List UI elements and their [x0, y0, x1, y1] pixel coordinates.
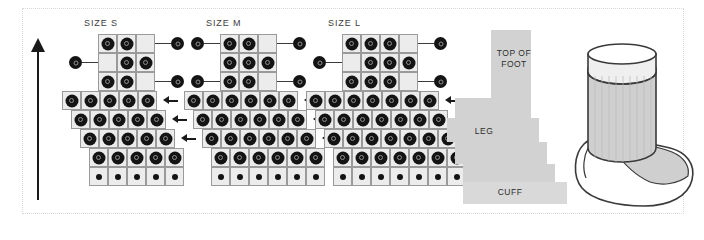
stitch-cell[interactable] — [138, 91, 157, 110]
stitch-cell[interactable] — [428, 167, 447, 186]
stitch-cell[interactable] — [278, 129, 297, 148]
stitch-cell[interactable] — [269, 110, 288, 129]
stitch-cell[interactable] — [428, 148, 447, 167]
stitch-cell[interactable] — [380, 53, 399, 72]
stitch-cell[interactable] — [117, 53, 136, 72]
stitch-cell[interactable] — [109, 110, 128, 129]
stitch-cell[interactable] — [239, 34, 258, 53]
stitch-cell[interactable] — [127, 148, 146, 167]
stitch-cell[interactable] — [390, 167, 409, 186]
stitch-cell[interactable] — [249, 148, 268, 167]
stitch-cell[interactable] — [380, 72, 399, 91]
stitch-cell[interactable] — [344, 91, 363, 110]
stitch-cell[interactable] — [409, 167, 428, 186]
stitch-cell[interactable] — [361, 53, 380, 72]
stitch-cell[interactable] — [363, 91, 382, 110]
stitch-cell[interactable] — [401, 91, 420, 110]
stitch-cell[interactable] — [288, 110, 307, 129]
stitch-cell[interactable] — [80, 129, 99, 148]
stitch-cell[interactable] — [399, 53, 418, 72]
stitch-cell[interactable] — [108, 167, 127, 186]
stitch-cell[interactable] — [136, 34, 155, 53]
stitch-cell[interactable] — [361, 34, 380, 53]
stitch-cell[interactable] — [268, 167, 287, 186]
stitch-cell[interactable] — [258, 34, 277, 53]
stitch-cell[interactable] — [117, 72, 136, 91]
stitch-cell[interactable] — [222, 91, 241, 110]
stitch-cell[interactable] — [352, 148, 371, 167]
stitch-cell[interactable] — [306, 91, 325, 110]
stitch-cell[interactable] — [353, 110, 372, 129]
stitch-cell[interactable] — [352, 167, 371, 186]
stitch-cell[interactable] — [220, 53, 239, 72]
stitch-cell[interactable] — [334, 110, 353, 129]
stitch-cell[interactable] — [137, 129, 156, 148]
stitch-cell[interactable] — [325, 91, 344, 110]
stitch-cell[interactable] — [333, 148, 352, 167]
stitch-cell[interactable] — [202, 129, 221, 148]
stitch-cell[interactable] — [343, 129, 362, 148]
stitch-cell[interactable] — [390, 148, 409, 167]
stitch-cell[interactable] — [184, 91, 203, 110]
stitch-cell[interactable] — [98, 53, 117, 72]
stitch-cell[interactable] — [260, 91, 279, 110]
stitch-cell[interactable] — [306, 167, 325, 186]
stitch-cell[interactable] — [211, 148, 230, 167]
stitch-cell[interactable] — [71, 110, 90, 129]
stitch-cell[interactable] — [220, 34, 239, 53]
stitch-cell[interactable] — [342, 72, 361, 91]
stitch-cell[interactable] — [371, 148, 390, 167]
stitch-cell[interactable] — [146, 148, 165, 167]
stitch-cell[interactable] — [381, 129, 400, 148]
stitch-cell[interactable] — [165, 148, 184, 167]
stitch-cell[interactable] — [287, 148, 306, 167]
stitch-cell[interactable] — [136, 53, 155, 72]
stitch-cell[interactable] — [371, 167, 390, 186]
stitch-cell[interactable] — [127, 167, 146, 186]
stitch-cell[interactable] — [136, 72, 155, 91]
stitch-cell[interactable] — [361, 72, 380, 91]
stitch-cell[interactable] — [249, 167, 268, 186]
stitch-cell[interactable] — [212, 110, 231, 129]
stitch-cell[interactable] — [239, 53, 258, 72]
stitch-cell[interactable] — [98, 72, 117, 91]
stitch-cell[interactable] — [297, 129, 316, 148]
stitch-cell[interactable] — [279, 91, 298, 110]
stitch-cell[interactable] — [306, 148, 325, 167]
stitch-cell[interactable] — [400, 129, 419, 148]
stitch-cell[interactable] — [372, 110, 391, 129]
stitch-cell[interactable] — [258, 53, 277, 72]
stitch-cell[interactable] — [420, 91, 439, 110]
stitch-cell[interactable] — [342, 53, 361, 72]
stitch-cell[interactable] — [146, 167, 165, 186]
stitch-cell[interactable] — [239, 72, 258, 91]
stitch-cell[interactable] — [230, 148, 249, 167]
stitch-cell[interactable] — [240, 129, 259, 148]
stitch-cell[interactable] — [89, 148, 108, 167]
stitch-cell[interactable] — [62, 91, 81, 110]
stitch-cell[interactable] — [429, 110, 448, 129]
stitch-cell[interactable] — [333, 167, 352, 186]
stitch-cell[interactable] — [258, 72, 277, 91]
stitch-cell[interactable] — [259, 129, 278, 148]
stitch-cell[interactable] — [287, 167, 306, 186]
stitch-cell[interactable] — [324, 129, 343, 148]
stitch-cell[interactable] — [419, 129, 438, 148]
stitch-cell[interactable] — [399, 34, 418, 53]
stitch-cell[interactable] — [119, 91, 138, 110]
stitch-cell[interactable] — [117, 34, 136, 53]
stitch-cell[interactable] — [118, 129, 137, 148]
stitch-cell[interactable] — [98, 34, 117, 53]
stitch-cell[interactable] — [220, 72, 239, 91]
stitch-cell[interactable] — [268, 148, 287, 167]
stitch-cell[interactable] — [241, 91, 260, 110]
stitch-cell[interactable] — [409, 148, 428, 167]
stitch-cell[interactable] — [231, 110, 250, 129]
stitch-cell[interactable] — [100, 91, 119, 110]
stitch-cell[interactable] — [342, 34, 361, 53]
stitch-cell[interactable] — [89, 167, 108, 186]
stitch-cell[interactable] — [399, 72, 418, 91]
stitch-cell[interactable] — [203, 91, 222, 110]
stitch-cell[interactable] — [211, 167, 230, 186]
stitch-cell[interactable] — [193, 110, 212, 129]
